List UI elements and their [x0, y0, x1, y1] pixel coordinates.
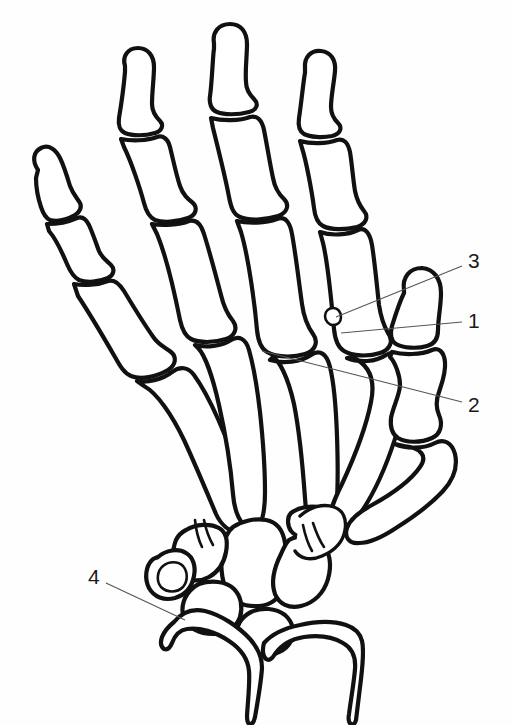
middle-finger-middle-phalanx [211, 117, 287, 220]
hamate-hook-detail [295, 505, 346, 558]
ring-finger-middle-phalanx [121, 136, 196, 221]
callout-label-2: 2 [468, 393, 480, 416]
ring-finger-distal-phalanx [119, 48, 162, 135]
little-finger-middle-phalanx [47, 217, 113, 281]
middle-finger-distal-phalanx [210, 24, 257, 114]
index-finger-proximal-phalanx [320, 229, 391, 355]
callout-label-4: 4 [88, 565, 100, 588]
little-finger-proximal-phalanx [74, 280, 175, 377]
little-finger-distal-phalanx [34, 147, 81, 221]
middle-finger-proximal-phalanx [237, 218, 316, 356]
hand-skeleton-figure: 3 1 2 4 [0, 0, 513, 725]
hand-skeleton-drawing: 3 1 2 4 [0, 0, 513, 725]
ulna [263, 622, 363, 724]
index-finger-distal-phalanx [299, 51, 341, 137]
thumb-distal-phalanx [391, 268, 441, 348]
trapezium-inner-facet [158, 562, 187, 591]
callout-label-3: 3 [468, 249, 480, 272]
index-finger-middle-phalanx [300, 140, 366, 230]
ring-finger-proximal-phalanx [152, 221, 235, 342]
callout-label-1: 1 [468, 309, 480, 332]
